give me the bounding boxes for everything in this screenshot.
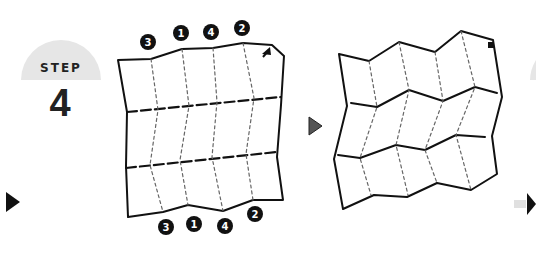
next-arrow-icon[interactable] <box>527 193 536 215</box>
next-step-arrow-icon <box>309 117 322 135</box>
marker-top-1: 1 <box>178 28 185 39</box>
marker-bottom-1: 1 <box>191 219 198 230</box>
left-paper <box>118 43 284 217</box>
folding-diagram: 3 1 4 2 3 1 4 2 <box>0 0 536 254</box>
marker-top-2: 4 <box>208 27 215 38</box>
right-corner-marker-icon <box>488 42 494 48</box>
bottom-markers: 3 1 4 2 <box>158 206 263 235</box>
previous-arrow-icon[interactable] <box>6 192 20 212</box>
next-step-badge-partial <box>530 60 536 80</box>
right-paper <box>334 31 502 209</box>
marker-top-0: 3 <box>145 37 152 48</box>
marker-bottom-3: 2 <box>252 209 259 220</box>
marker-bottom-2: 4 <box>222 221 229 232</box>
right-arrow-shaft <box>514 200 526 208</box>
marker-top-3: 2 <box>239 23 246 34</box>
marker-bottom-0: 3 <box>163 222 170 233</box>
